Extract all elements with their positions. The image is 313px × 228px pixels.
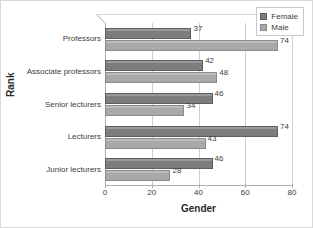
category-label: Professors xyxy=(63,34,101,44)
legend-label: Female xyxy=(271,12,298,21)
y-axis-category-labels: ProfessorsAssociate professorsSenior lec… xyxy=(1,23,101,186)
bar-value-label: 46 xyxy=(215,89,224,99)
bar-male xyxy=(105,105,184,116)
x-tick-label: 80 xyxy=(288,188,297,198)
bar-female xyxy=(105,93,213,104)
category-label: Senior lecturers xyxy=(45,100,101,110)
category-label: Lecturers xyxy=(68,132,101,142)
legend-label: Male xyxy=(271,23,288,32)
bar-female xyxy=(105,158,213,169)
x-axis-title: Gender xyxy=(105,203,292,214)
bar-male xyxy=(105,138,206,149)
x-tick-label: 60 xyxy=(241,188,250,198)
category-label: Associate professors xyxy=(27,67,101,77)
bar-female xyxy=(105,126,278,137)
chart-container: Rank ProfessorsAssociate professorsSenio… xyxy=(0,0,313,228)
category-label: Junior lecturers xyxy=(46,165,101,175)
bar-value-label: 48 xyxy=(219,68,228,78)
x-tick-label: 0 xyxy=(103,188,107,198)
bar-value-label: 46 xyxy=(215,154,224,164)
bar-value-label: 34 xyxy=(186,101,195,111)
legend-swatch-male-icon xyxy=(260,24,267,31)
bar-male xyxy=(105,72,217,83)
bar-value-label: 74 xyxy=(280,122,289,132)
legend: FemaleMale xyxy=(256,7,304,36)
bar-male xyxy=(105,170,170,181)
bar-value-label: 37 xyxy=(193,24,202,34)
plot-area: 37744248463474434628 xyxy=(105,23,292,186)
bar-female xyxy=(105,60,203,71)
x-tick-label: 40 xyxy=(194,188,203,198)
bar-female xyxy=(105,28,191,39)
gridline xyxy=(292,23,293,186)
bar-value-label: 28 xyxy=(172,166,181,176)
bar-value-label: 43 xyxy=(208,134,217,144)
legend-item[interactable]: Female xyxy=(260,11,298,21)
bar-value-label: 74 xyxy=(280,36,289,46)
legend-swatch-female-icon xyxy=(260,13,267,20)
bar-male xyxy=(105,40,278,51)
x-axis-tick-labels: 020406080 xyxy=(105,188,292,202)
legend-item[interactable]: Male xyxy=(260,22,298,32)
x-tick-label: 20 xyxy=(147,188,156,198)
bar-value-label: 42 xyxy=(205,56,214,66)
